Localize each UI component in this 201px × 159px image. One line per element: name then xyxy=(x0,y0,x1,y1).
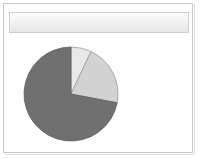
pie-chart-area xyxy=(4,34,194,152)
chart-frame xyxy=(3,3,193,153)
chart-title-bar xyxy=(9,12,189,33)
pie-chart-svg xyxy=(22,43,122,145)
